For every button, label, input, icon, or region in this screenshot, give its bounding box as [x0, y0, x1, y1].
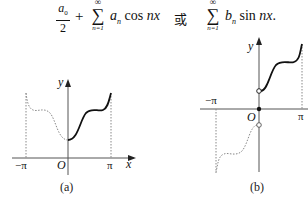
figure-b-plot: y O −π π: [150, 0, 308, 200]
figure-a-even-extension: y x O −π π (a): [0, 0, 150, 200]
x-label: x: [125, 157, 132, 171]
origin-label: O: [57, 158, 66, 172]
odd-extension-dotted-curve: [216, 125, 257, 172]
y-axis-arrow-icon: [256, 37, 262, 45]
caption-a: (a): [60, 180, 73, 195]
neg-pi-label: −π: [205, 94, 217, 106]
pi-label: π: [107, 159, 113, 171]
function-solid-curve: [68, 93, 111, 140]
y-label: y: [247, 39, 254, 53]
open-circle-upper-icon: [257, 89, 262, 94]
figure-b-odd-extension: y O −π π (b): [150, 0, 308, 200]
caption-b: (b): [250, 180, 264, 195]
origin-label: O: [247, 110, 256, 124]
y-axis-arrow-icon: [65, 79, 71, 87]
origin-filled-dot-icon: [257, 107, 261, 111]
pi-label: π: [298, 110, 304, 122]
even-extension-dotted-curve: [26, 93, 68, 140]
figure-a-plot: y x O −π π: [0, 0, 150, 200]
neg-pi-label: −π: [15, 159, 27, 171]
function-solid-curve: [261, 44, 302, 91]
y-label: y: [57, 75, 64, 89]
open-circle-lower-icon: [257, 123, 262, 128]
